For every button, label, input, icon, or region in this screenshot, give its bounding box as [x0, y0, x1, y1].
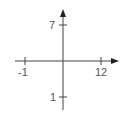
x-axis-arrow-icon — [111, 58, 119, 64]
y-tick-label-1: 1 — [50, 91, 56, 103]
coordinate-axes-diagram: -1 12 7 1 — [0, 0, 125, 114]
x-tick-label-neg1: -1 — [18, 66, 28, 78]
x-tick-label-12: 12 — [95, 66, 107, 78]
y-axis-arrow-icon — [60, 9, 66, 17]
y-tick-label-7: 7 — [49, 19, 55, 31]
